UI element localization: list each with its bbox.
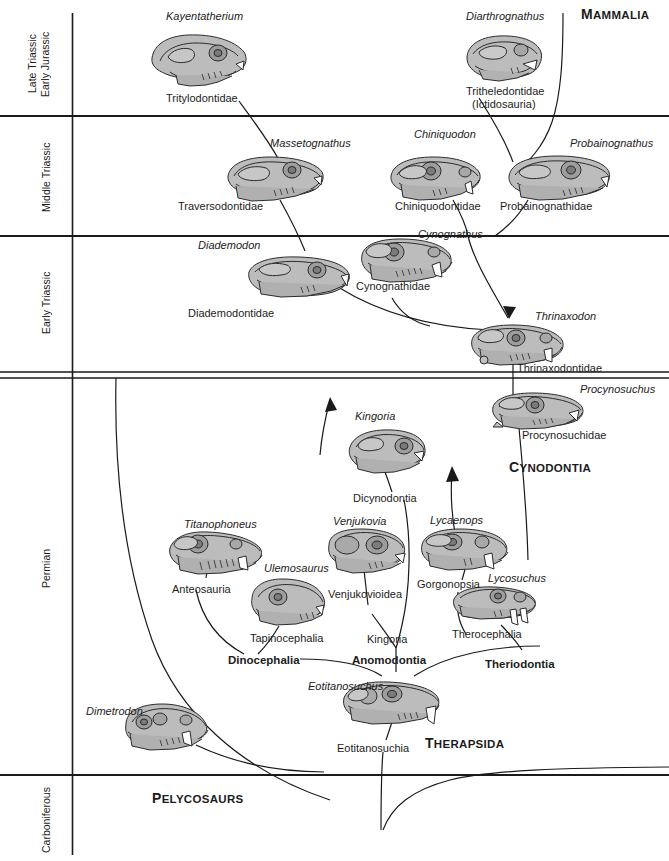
lineage-therapsid-origin — [383, 767, 669, 830]
lineage-traversodontidae — [280, 200, 305, 251]
mammalia-rest: AMMALIA — [593, 9, 649, 21]
label-lycosuchus-genus: Lycosuchus — [488, 572, 546, 584]
period-line-1: Permian — [40, 548, 52, 587]
label-thrinaxodontidae: Thrinaxodontidae — [517, 362, 602, 374]
cynodontia-rest: YNODONTIA — [519, 462, 591, 474]
label-diademodontidae: Diademodontidae — [188, 307, 274, 319]
arrowhead-dicynodontia — [325, 397, 337, 412]
label-diarthrognathus-genus: Diarthrognathus — [466, 10, 544, 22]
therapsida-rest: HERAPSIDA — [434, 738, 504, 750]
period-line-1: Middle Triassic — [40, 142, 52, 211]
period-label-permian: Permian — [40, 540, 60, 596]
label-therapsida: THERAPSIDA — [425, 737, 504, 750]
period-line-1: Early Triassic — [40, 272, 52, 334]
label-tapinocephalia: Tapinocephalia — [250, 632, 323, 644]
label-dinocephalia: Dinocephalia — [228, 654, 300, 666]
label-cynognathus-genus: Cynognathus — [418, 228, 483, 240]
label-eotitanosuchus-genus: Eotitanosuchus — [308, 680, 383, 692]
period-label-early-triassic: Early Triassic — [40, 258, 60, 348]
lineage-chiniquodontid-to-thrinaxodon — [468, 236, 508, 318]
label-eotitanosuchia: Eotitanosuchia — [337, 742, 409, 754]
label-venjukovioidea: Venjukovioidea — [328, 588, 402, 600]
label-tritylodontidae: Tritylodontidae — [166, 92, 238, 104]
period-label-carboniferous: Carboniferous — [40, 783, 60, 857]
label-titanophoneus-genus: Titanophoneus — [184, 518, 257, 530]
mammalia-initial: M — [581, 6, 593, 22]
label-massetognathus-genus: Massetognathus — [270, 137, 351, 149]
label-diademodon-genus: Diademodon — [198, 239, 260, 251]
label-procynosuchus-genus: Procynosuchus — [580, 383, 655, 395]
label-kingoria-genus: Kingoria — [355, 410, 395, 422]
skull-diademodon — [245, 252, 353, 302]
pelycosaurs-initial: P — [152, 790, 162, 806]
label-therocephalia: Therocephalia — [452, 628, 522, 640]
period-label-late-triassic-early-jurassic: Late Triassic Early Jurassic — [26, 18, 70, 110]
label-probainognathus-genus: Probainognathus — [570, 137, 653, 149]
label-kingoria-clade: Kingoria — [367, 633, 407, 645]
label-cynognathidae: Cynognathidae — [356, 280, 430, 292]
label-mammalia: MAMMALIA — [581, 8, 649, 21]
label-theriodontia: Theriodontia — [485, 658, 555, 670]
label-procynosuchidae: Procynosuchidae — [522, 429, 606, 441]
skull-kingoria — [344, 425, 428, 477]
label-dimetrodon-genus: Dimetrodon — [86, 705, 143, 717]
label-anteosauria: Anteosauria — [172, 583, 231, 595]
skull-ulemosaurus — [248, 575, 328, 627]
arrowhead-cynodontia — [446, 466, 459, 482]
skull-venjukovia — [325, 525, 409, 575]
label-dicynodontia: Dicynodontia — [353, 492, 417, 504]
skull-kayentatherium — [146, 28, 250, 90]
skull-lycaenops — [418, 525, 510, 575]
period-label-middle-triassic: Middle Triassic — [40, 130, 60, 224]
label-probainognathidae: Probainognathidae — [500, 200, 592, 212]
skull-chiniquodon — [387, 152, 483, 204]
therapsida-initial: T — [425, 735, 434, 751]
label-kayentatherium-genus: Kayentatherium — [166, 10, 243, 22]
lineage-anteosauria-down — [196, 590, 244, 654]
lineage-procynosuchidae — [519, 428, 528, 560]
label-tritheledontidae: Tritheledontidae — [466, 85, 544, 97]
period-line-1: Carboniferous — [40, 787, 52, 853]
skull-titanophoneus — [166, 528, 266, 578]
label-lycaenops-genus: Lycaenops — [430, 514, 483, 526]
label-cynodontia: CYNODONTIA — [509, 461, 591, 474]
period-line-2: Early Jurassic — [39, 31, 51, 96]
lineage-therapsida-stem — [381, 752, 383, 830]
cynodontia-initial: C — [509, 459, 519, 475]
label-pelycosaurs: PELYCOSAURS — [152, 792, 243, 805]
label-chiniquodon-genus: Chiniquodon — [414, 128, 476, 140]
pelycosaurs-rest: ELYCOSAURS — [162, 793, 244, 805]
skull-probainognathus — [505, 150, 613, 204]
period-line-1: Late Triassic — [26, 35, 38, 94]
label-ulemosaurus-genus: Ulemosaurus — [264, 562, 329, 574]
label-ictidosauria: (Ictidosauria) — [472, 98, 536, 110]
label-anomodontia: Anomodontia — [352, 654, 426, 666]
skull-massetognathus — [222, 152, 326, 204]
skull-diarthrognathus — [463, 30, 545, 85]
label-thrinaxodon-genus: Thrinaxodon — [535, 310, 596, 322]
label-gorgonopsia: Gorgonopsia — [417, 578, 480, 590]
label-traversodontidae: Traversodontidae — [178, 200, 263, 212]
phylogeny-diagram: Late Triassic Early Jurassic Middle Tria… — [0, 0, 669, 861]
label-chiniquodontidae: Chiniquodontidae — [395, 200, 481, 212]
label-venjukovia-genus: Venjukovia — [333, 515, 386, 527]
skull-procynosuchus — [489, 389, 587, 433]
